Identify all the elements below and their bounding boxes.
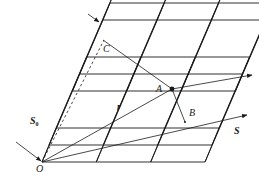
label-s: S [234, 125, 240, 136]
label-r: r [117, 101, 121, 112]
label-s0: S0 [30, 115, 39, 127]
label-c: C [103, 43, 110, 54]
scattered-beam-arrow [42, 115, 247, 162]
point-b-dot [184, 121, 186, 123]
incident-ray-top-arrow [88, 14, 99, 22]
dashed-line-oc [42, 40, 104, 162]
lattice-diffraction-diagram: C A B r O S0 S [0, 0, 259, 172]
lattice-line [219, 0, 259, 128]
label-a: A [155, 83, 163, 94]
ray-c-to-a [103, 40, 172, 89]
point-a-dot [170, 87, 175, 92]
incident-beam-arrow [16, 142, 41, 161]
position-vector-r [42, 89, 172, 162]
lattice-grid [42, 0, 259, 162]
label-o: O [36, 163, 43, 172]
label-b: B [189, 107, 195, 118]
